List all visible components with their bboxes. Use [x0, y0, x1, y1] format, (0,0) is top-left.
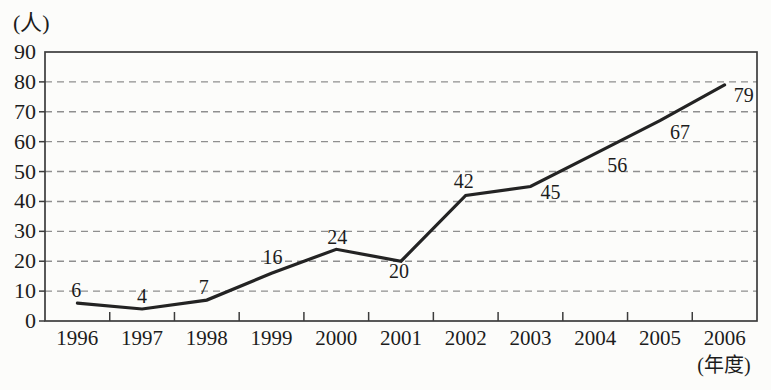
x-tick-label: 2005	[639, 326, 681, 350]
point-label: 6	[71, 279, 81, 301]
x-tick-label: 1999	[251, 326, 293, 350]
y-axis-unit-label: (人)	[13, 10, 50, 35]
x-tick-label: 2001	[380, 326, 422, 350]
y-tick-label: 0	[25, 308, 36, 333]
point-label: 42	[454, 170, 474, 192]
x-tick-label: 2006	[704, 326, 746, 350]
chart-page: 0102030405060708090199619971998199920002…	[0, 0, 771, 390]
point-label: 56	[607, 154, 627, 176]
x-tick-label: 1998	[186, 326, 228, 350]
point-label: 4	[137, 285, 147, 307]
point-label: 24	[327, 226, 347, 248]
point-label: 20	[389, 260, 409, 282]
point-label: 67	[670, 121, 690, 143]
point-label: 7	[199, 276, 209, 298]
x-tick-label: 2003	[509, 326, 551, 350]
point-label: 45	[540, 181, 560, 203]
y-tick-label: 50	[14, 159, 36, 184]
x-tick-label: 2000	[315, 326, 357, 350]
y-tick-label: 30	[14, 218, 36, 243]
point-label: 79	[734, 84, 754, 106]
line-chart: 0102030405060708090199619971998199920002…	[0, 0, 771, 390]
y-tick-label: 60	[14, 129, 36, 154]
point-label: 16	[263, 246, 283, 268]
x-tick-label: 1996	[56, 326, 98, 350]
x-tick-label: 1997	[121, 326, 163, 350]
x-axis-unit-label: (年度)	[697, 354, 750, 377]
y-tick-label: 80	[14, 69, 36, 94]
x-tick-label: 2002	[445, 326, 487, 350]
y-tick-label: 90	[14, 39, 36, 64]
y-tick-label: 40	[14, 188, 36, 213]
y-tick-label: 10	[14, 278, 36, 303]
x-tick-label: 2004	[574, 326, 617, 350]
y-tick-label: 20	[14, 248, 36, 273]
y-tick-label: 70	[14, 99, 36, 124]
